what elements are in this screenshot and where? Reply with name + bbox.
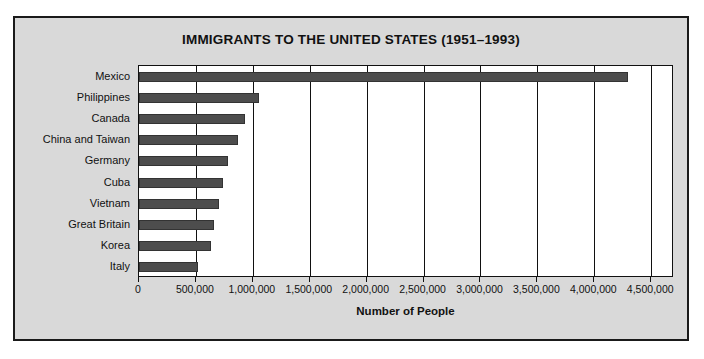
x-tick-label: 4,000,000 bbox=[570, 283, 617, 295]
y-tick-label: China and Taiwan bbox=[43, 129, 130, 150]
x-tick-label: 1,000,000 bbox=[228, 283, 275, 295]
chart-figure: IMMIGRANTS TO THE UNITED STATES (1951–19… bbox=[13, 16, 689, 341]
x-axis-title: Number of People bbox=[138, 305, 673, 317]
chart-title: IMMIGRANTS TO THE UNITED STATES (1951–19… bbox=[15, 32, 687, 47]
bar-row bbox=[139, 151, 674, 172]
bar bbox=[139, 135, 238, 145]
y-tick-label: Vietnam bbox=[90, 192, 130, 213]
bar bbox=[139, 114, 245, 124]
tick-mark bbox=[252, 277, 253, 282]
x-axis-tick-labels: 0500,0001,000,0001,500,0002,000,0002,500… bbox=[138, 283, 673, 299]
tick-mark bbox=[366, 277, 367, 282]
tick-mark bbox=[138, 277, 139, 282]
bar-row bbox=[139, 130, 674, 151]
bar-row bbox=[139, 108, 674, 129]
y-tick-label: Italy bbox=[110, 256, 130, 277]
bar-row bbox=[139, 87, 674, 108]
bar bbox=[139, 199, 219, 209]
x-tick-label: 2,000,000 bbox=[342, 283, 389, 295]
bar-row bbox=[139, 172, 674, 193]
y-tick-label: Korea bbox=[101, 235, 130, 256]
bar bbox=[139, 241, 211, 251]
bar bbox=[139, 93, 259, 103]
bar-series bbox=[139, 66, 672, 276]
tick-mark bbox=[195, 277, 196, 282]
tick-mark bbox=[479, 277, 480, 282]
bar-row bbox=[139, 66, 674, 87]
bar bbox=[139, 72, 628, 82]
tick-mark bbox=[593, 277, 594, 282]
bar bbox=[139, 156, 228, 166]
x-tick-label: 500,000 bbox=[176, 283, 214, 295]
bar bbox=[139, 262, 198, 272]
bar-row bbox=[139, 193, 674, 214]
bar-row bbox=[139, 236, 674, 257]
y-tick-label: Canada bbox=[91, 107, 130, 128]
bar-row bbox=[139, 214, 674, 235]
x-tick-label: 4,500,000 bbox=[627, 283, 674, 295]
x-tick-label: 3,000,000 bbox=[456, 283, 503, 295]
bar bbox=[139, 178, 223, 188]
tick-mark bbox=[536, 277, 537, 282]
x-tick-label: 2,500,000 bbox=[399, 283, 446, 295]
bar bbox=[139, 220, 214, 230]
tick-mark bbox=[650, 277, 651, 282]
y-tick-label: Mexico bbox=[95, 65, 130, 86]
y-tick-label: Great Britain bbox=[68, 213, 130, 234]
plot-area bbox=[138, 65, 673, 277]
tick-mark bbox=[309, 277, 310, 282]
y-tick-label: Germany bbox=[85, 150, 130, 171]
y-tick-label: Cuba bbox=[104, 171, 130, 192]
x-tick-label: 1,500,000 bbox=[285, 283, 332, 295]
y-tick-label: Philippines bbox=[77, 86, 130, 107]
x-tick-label: 3,500,000 bbox=[513, 283, 560, 295]
y-axis-category-labels: MexicoPhilippinesCanadaChina and TaiwanG… bbox=[15, 65, 134, 277]
tick-mark bbox=[423, 277, 424, 282]
bar-row bbox=[139, 257, 674, 278]
x-tick-label: 0 bbox=[135, 283, 141, 295]
